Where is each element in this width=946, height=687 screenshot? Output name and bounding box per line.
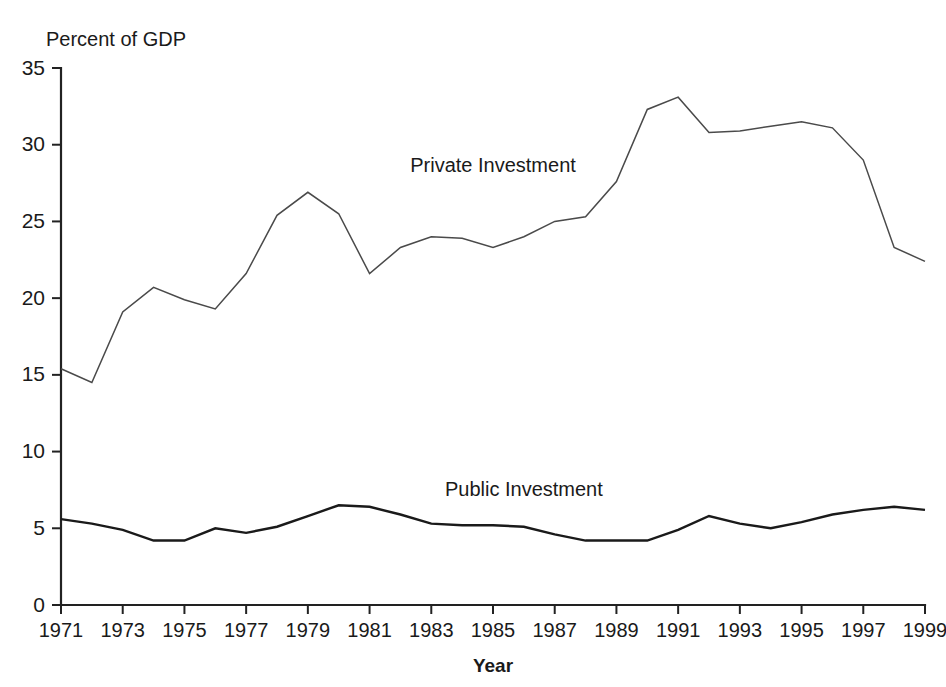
series-annotations: Private InvestmentPublic Investment <box>410 154 603 500</box>
y-tick-label: 5 <box>33 516 45 539</box>
x-tick-label: 1973 <box>100 619 145 641</box>
y-tick-label: 10 <box>22 439 45 462</box>
y-tick-label: 15 <box>22 362 45 385</box>
series-line-public-investment <box>61 505 925 540</box>
x-tick-label: 1977 <box>224 619 269 641</box>
y-tick-label: 20 <box>22 286 45 309</box>
x-tick-label: 1983 <box>409 619 454 641</box>
x-tick-label: 1997 <box>841 619 886 641</box>
public-investment-label: Public Investment <box>445 478 603 500</box>
y-tick-label: 30 <box>22 132 45 155</box>
chart-canvas: Percent of GDP 05101520253035 1971197319… <box>0 0 946 687</box>
x-tick-label: 1999 <box>903 619 946 641</box>
x-tick-label: 1971 <box>39 619 84 641</box>
y-tick-label: 35 <box>22 56 45 79</box>
y-tick-label: 0 <box>33 593 45 616</box>
y-axis-title: Percent of GDP <box>46 28 186 50</box>
y-axis-ticks: 05101520253035 <box>22 56 61 616</box>
x-tick-label: 1981 <box>347 619 392 641</box>
series-line-private-investment <box>61 97 925 382</box>
x-axis-title: Year <box>473 655 514 676</box>
x-tick-label: 1989 <box>594 619 639 641</box>
x-axis-ticks: 1971197319751977197919811983198519871989… <box>39 605 946 641</box>
x-tick-label: 1985 <box>471 619 516 641</box>
x-tick-label: 1993 <box>718 619 763 641</box>
x-tick-label: 1991 <box>656 619 701 641</box>
private-investment-label: Private Investment <box>410 154 576 176</box>
x-tick-label: 1975 <box>162 619 207 641</box>
y-tick-label: 25 <box>22 209 45 232</box>
x-tick-label: 1987 <box>532 619 577 641</box>
investment-chart: Percent of GDP 05101520253035 1971197319… <box>0 0 946 687</box>
x-tick-label: 1979 <box>286 619 331 641</box>
x-tick-label: 1995 <box>779 619 824 641</box>
